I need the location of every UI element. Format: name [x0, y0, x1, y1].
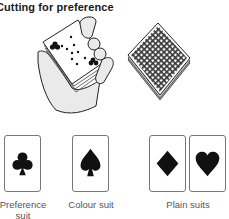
hand-holding-cards-icon [38, 17, 113, 113]
plain-suits-label: Plain suits [155, 199, 221, 210]
diamond-icon [150, 136, 185, 191]
face-down-deck-icon [128, 23, 190, 100]
heart-card [189, 135, 226, 192]
colour-suit-label: Colour suit [62, 199, 120, 210]
spade-icon [73, 136, 108, 191]
diamond-card [149, 135, 186, 192]
illustration [0, 0, 229, 125]
club-card [4, 135, 41, 192]
spade-card [72, 135, 109, 192]
heart-icon [190, 136, 225, 191]
preference-suit-label: Preference suit [0, 199, 48, 219]
club-icon [5, 136, 40, 191]
